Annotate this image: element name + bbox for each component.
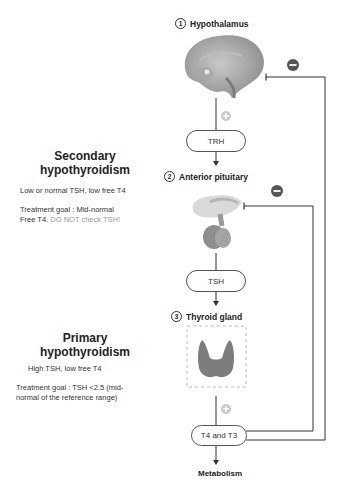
step-label: Hypothalamus — [190, 19, 249, 29]
inhibit-icon — [287, 59, 299, 71]
step-label: Thyroid gland — [186, 312, 242, 322]
step-anterior-pituitary: 2 Anterior pituitary — [164, 171, 248, 182]
step-thyroid-gland: 3 Thyroid gland — [171, 311, 242, 322]
secondary-title: Secondary hypothyroidism — [10, 149, 160, 177]
inhibit-icon — [271, 185, 283, 197]
hormone-trh: TRH — [186, 130, 246, 152]
arrow-head-icon — [213, 460, 219, 465]
hormone-t4-t3: T4 and T3 — [191, 425, 247, 446]
diagram-graphics — [0, 0, 338, 491]
secondary-labs: Low or normal TSH, low free T4 — [10, 186, 160, 196]
output-metabolism: Metabolism — [198, 469, 242, 478]
primary-treatment-goal: Treatment goal : TSH <2.5 (mid- normal o… — [10, 383, 160, 403]
secondary-treatment-goal: Treatment goal : Mid-normal Free T4. DO … — [10, 205, 160, 225]
feedback-loop-pituitary — [244, 203, 313, 432]
brain-illustration — [185, 35, 264, 98]
step-number-badge: 2 — [164, 171, 175, 182]
primary-labs: High TSH, low free T4 — [10, 364, 160, 374]
stimulate-icon — [221, 111, 231, 121]
step-number-badge: 1 — [175, 18, 186, 29]
step-hypothalamus: 1 Hypothalamus — [175, 18, 249, 29]
primary-hypothyroidism-panel: Primary hypothyroidism High TSH, low fre… — [10, 331, 160, 403]
stimulate-icon — [221, 404, 231, 414]
hormone-tsh: TSH — [186, 270, 246, 292]
arrow-head-icon — [213, 161, 219, 166]
thyroid-frame — [187, 326, 246, 387]
thyroid-illustration — [198, 340, 234, 377]
step-number-badge: 3 — [171, 311, 182, 322]
secondary-hypothyroidism-panel: Secondary hypothyroidism Low or normal T… — [10, 149, 160, 225]
step-label: Anterior pituitary — [179, 172, 248, 182]
arrow-head-icon — [213, 301, 219, 306]
warning-text: DO NOT check TSH! — [48, 215, 120, 224]
primary-title: Primary hypothyroidism — [10, 331, 160, 359]
pituitary-illustration — [193, 195, 242, 249]
